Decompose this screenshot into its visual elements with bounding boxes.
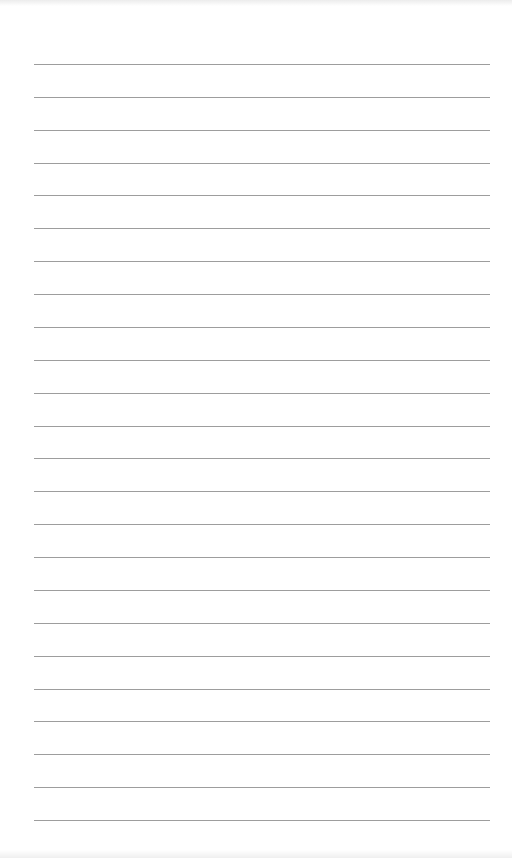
ruled-line bbox=[34, 261, 490, 262]
ruled-line bbox=[34, 820, 490, 821]
ruled-lines-container bbox=[0, 0, 512, 858]
ruled-line bbox=[34, 590, 490, 591]
ruled-line bbox=[34, 360, 490, 361]
ruled-line bbox=[34, 787, 490, 788]
ruled-line bbox=[34, 689, 490, 690]
ruled-line bbox=[34, 623, 490, 624]
ruled-line bbox=[34, 294, 490, 295]
ruled-line bbox=[34, 524, 490, 525]
ruled-line bbox=[34, 228, 490, 229]
ruled-line bbox=[34, 97, 490, 98]
ruled-line bbox=[34, 721, 490, 722]
ruled-line bbox=[34, 195, 490, 196]
page-bottom-edge bbox=[0, 850, 512, 858]
ruled-line bbox=[34, 64, 490, 65]
ruled-line bbox=[34, 130, 490, 131]
ruled-line bbox=[34, 557, 490, 558]
ruled-line bbox=[34, 327, 490, 328]
ruled-line bbox=[34, 491, 490, 492]
ruled-line bbox=[34, 426, 490, 427]
lined-paper-page bbox=[0, 0, 512, 858]
ruled-line bbox=[34, 656, 490, 657]
ruled-line bbox=[34, 754, 490, 755]
ruled-line bbox=[34, 393, 490, 394]
ruled-line bbox=[34, 458, 490, 459]
ruled-line bbox=[34, 163, 490, 164]
